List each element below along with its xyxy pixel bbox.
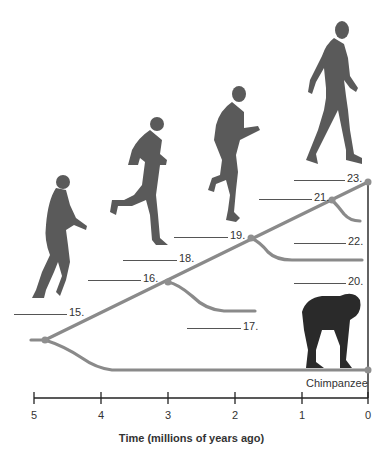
node-16 — [165, 279, 172, 286]
tick-label-2: 2 — [225, 409, 245, 421]
blank-line-15[interactable] — [14, 314, 67, 315]
blank-line-18[interactable] — [123, 260, 177, 261]
hominid-figure-2 — [110, 117, 168, 245]
hominid-figure-1 — [32, 175, 87, 298]
tick-label-4: 4 — [91, 409, 111, 421]
blank-number-21: 21. — [314, 191, 329, 203]
blank-number-22: 22. — [348, 235, 363, 247]
blank-number-15: 15. — [69, 306, 84, 318]
blank-line-21[interactable] — [259, 199, 312, 200]
node-19 — [248, 235, 255, 242]
time-axis — [34, 392, 368, 404]
blank-number-17: 17. — [243, 320, 258, 332]
hominid-figure-4 — [306, 21, 362, 164]
node-modern-human — [365, 179, 372, 186]
tick-label-1: 1 — [292, 409, 312, 421]
blank-line-20[interactable] — [294, 283, 346, 284]
branch-21 — [332, 200, 360, 221]
tick-label-5: 5 — [24, 409, 44, 421]
blank-number-20: 20. — [348, 275, 363, 287]
tick-label-3: 3 — [158, 409, 178, 421]
blank-number-23: 23. — [347, 172, 362, 184]
chimpanzee-label: Chimpanzee — [306, 377, 368, 389]
blank-line-16[interactable] — [88, 280, 141, 281]
blank-line-23[interactable] — [294, 180, 345, 181]
branch-22 — [251, 238, 362, 260]
axis-title: Time (millions of years ago) — [0, 432, 383, 444]
branch-17 — [168, 282, 255, 311]
node-21 — [329, 197, 336, 204]
tick-label-0: 0 — [358, 409, 378, 421]
blank-line-17[interactable] — [187, 328, 241, 329]
hominid-figure-3 — [208, 86, 260, 222]
chimpanzee-figure — [302, 294, 361, 368]
blank-number-18: 18. — [179, 252, 194, 264]
node-common-ancestor — [42, 337, 49, 344]
blank-line-22[interactable] — [294, 243, 346, 244]
blank-number-19: 19. — [230, 229, 245, 241]
blank-number-16: 16. — [143, 272, 158, 284]
node-chimpanzee — [365, 367, 372, 374]
blank-line-19[interactable] — [174, 237, 228, 238]
